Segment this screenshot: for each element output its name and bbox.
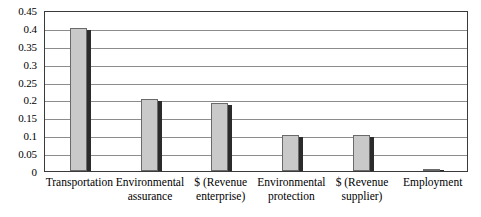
x-axis-category-label: $ (Revenue supplier) bbox=[323, 175, 402, 203]
y-axis-tick-label: 0.15 bbox=[18, 113, 37, 124]
y-axis-tick-label: 0.35 bbox=[18, 41, 37, 52]
y-axis-tick-label: 0.25 bbox=[18, 77, 37, 88]
bar bbox=[282, 135, 303, 171]
x-axis-category-label: Environmental assurance bbox=[111, 175, 190, 203]
bar bbox=[211, 103, 232, 171]
bar-body bbox=[211, 103, 228, 171]
bar-body bbox=[423, 169, 440, 171]
plot-area bbox=[44, 11, 468, 172]
bar-body bbox=[141, 99, 158, 171]
y-axis: 00.050.10.150.20.250.30.350.40.45 bbox=[0, 11, 41, 172]
bar-shadow bbox=[440, 170, 444, 171]
bar-shadow bbox=[158, 101, 162, 171]
bar-shadow bbox=[299, 137, 303, 171]
bar-shadow bbox=[228, 105, 232, 171]
x-axis-category-label: Transportation bbox=[40, 175, 119, 189]
bar-shadow bbox=[87, 30, 91, 171]
x-axis-category-label: Environmental protection bbox=[252, 175, 331, 203]
bar bbox=[423, 169, 444, 171]
bar-body bbox=[353, 135, 370, 171]
x-axis: TransportationEnvironmental assurance$ (… bbox=[44, 175, 468, 217]
bar-body bbox=[70, 28, 87, 171]
y-axis-tick-label: 0.4 bbox=[24, 23, 37, 34]
y-axis-tick-label: 0.1 bbox=[24, 131, 37, 142]
y-axis-tick-label: 0.2 bbox=[24, 95, 37, 106]
bar bbox=[353, 135, 374, 171]
bar bbox=[70, 28, 91, 171]
y-axis-tick-label: 0.3 bbox=[24, 59, 37, 70]
bar bbox=[141, 99, 162, 171]
bar-chart: 00.050.10.150.20.250.30.350.40.45 Transp… bbox=[0, 0, 481, 217]
x-axis-category-label: $ (Revenue enterprise) bbox=[181, 175, 260, 203]
bar-shadow bbox=[370, 137, 374, 171]
x-axis-category-label: Employment bbox=[393, 175, 472, 189]
bars-layer bbox=[45, 12, 467, 171]
y-axis-tick-label: 0.05 bbox=[18, 149, 37, 160]
bar-body bbox=[282, 135, 299, 171]
y-axis-tick-label: 0.45 bbox=[18, 6, 37, 17]
y-axis-tick-label: 0 bbox=[32, 167, 37, 178]
